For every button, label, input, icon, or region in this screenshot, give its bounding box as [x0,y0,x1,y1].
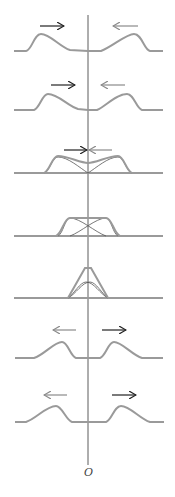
origin-label: O [84,466,93,479]
frame-7 [15,395,164,422]
wave-pulse [15,342,163,358]
wave-pulse [15,406,164,422]
frame-5 [14,268,163,298]
wave-pulse [14,94,163,110]
frame-4 [14,218,163,236]
superposition-diagram [0,0,175,497]
frame-3 [14,150,163,173]
frame-6 [15,330,163,358]
frame-2 [14,85,163,110]
wave-pulse [14,34,163,51]
frame-1 [14,26,163,51]
